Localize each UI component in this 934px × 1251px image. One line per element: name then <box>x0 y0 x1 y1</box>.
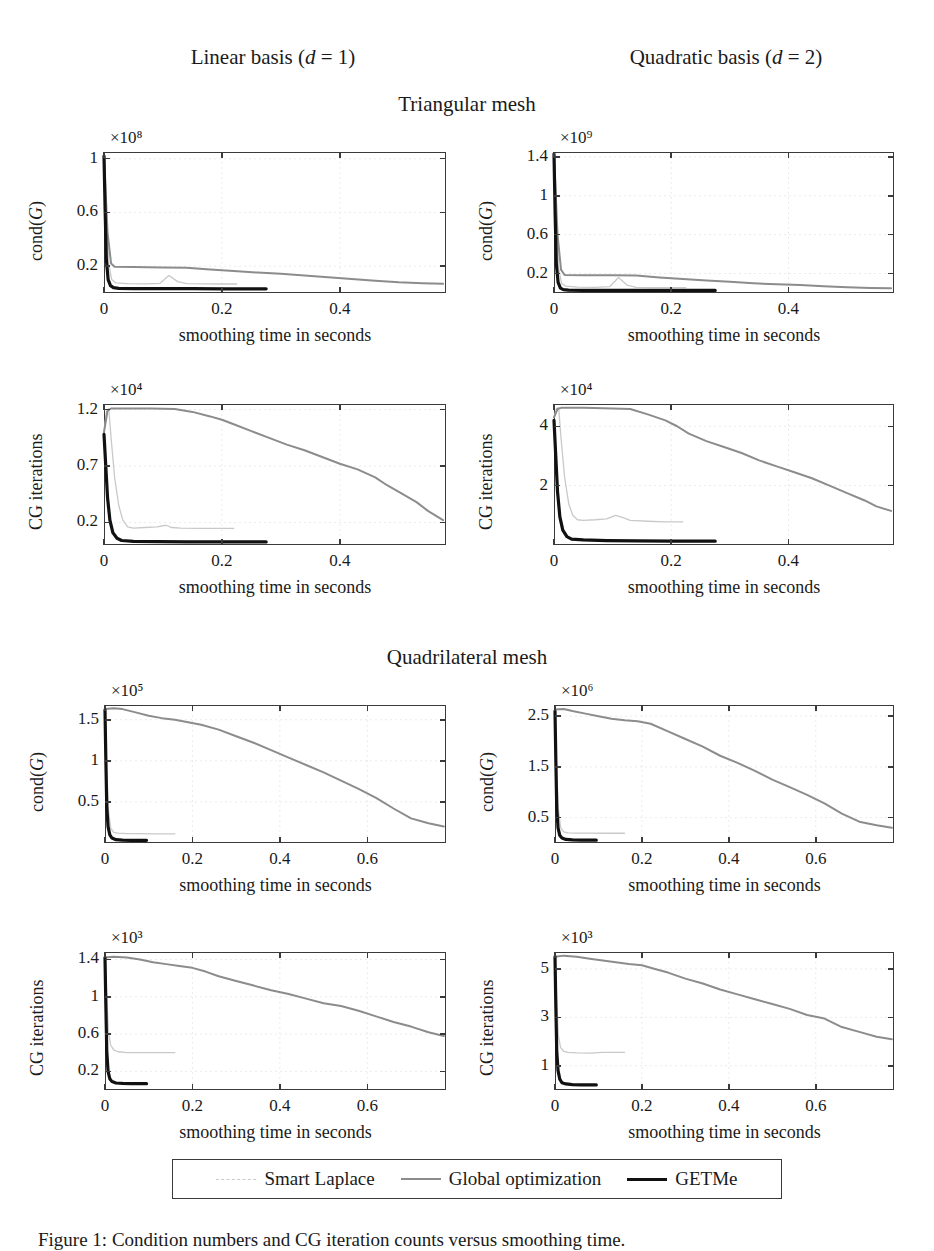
x-tick-mark <box>192 705 194 711</box>
y-tick-mark <box>555 817 561 819</box>
y-tick-label: 0.5 <box>497 807 549 827</box>
y-tick-mark <box>104 265 110 267</box>
x-tick-mark <box>367 1084 369 1090</box>
x-tick-label: 0.6 <box>337 849 397 869</box>
x-tick-mark <box>670 539 672 545</box>
y-tick-label: 1.4 <box>496 146 548 166</box>
y-tick-label: 3 <box>497 1006 549 1026</box>
y-tick-label: 0.2 <box>496 263 548 283</box>
x-tick-label: 0.4 <box>310 551 370 571</box>
series-line <box>554 408 683 522</box>
gridlines <box>554 404 894 545</box>
y-tick-mark <box>888 817 894 819</box>
x-tick-label: 0.4 <box>699 849 759 869</box>
x-tick-label: 0.4 <box>250 1096 310 1116</box>
x-tick-mark <box>641 1084 643 1090</box>
chart-canvas <box>104 152 446 293</box>
legend-item-smart-laplace: Smart Laplace <box>216 1168 400 1190</box>
legend: Smart Laplace Global optimization GETMe <box>172 1159 782 1199</box>
y-tick-mark <box>440 959 446 961</box>
y-tick-mark <box>555 1017 561 1019</box>
x-tick-label: 0.2 <box>641 299 701 319</box>
chart-canvas <box>105 952 446 1090</box>
y-axis-label: CG iterations <box>476 433 497 530</box>
x-tick-mark <box>339 152 341 158</box>
section-heading-quadrilateral: Quadrilateral mesh <box>0 645 934 670</box>
y-tick-label: 1.2 <box>46 399 98 419</box>
x-tick-mark <box>554 705 556 711</box>
series-line <box>105 708 444 826</box>
gridlines <box>554 152 894 293</box>
x-axis-label: smoothing time in seconds <box>554 577 894 598</box>
y-tick-label: 0.7 <box>46 455 98 475</box>
x-tick-mark <box>641 705 643 711</box>
x-tick-label: 0.2 <box>192 551 252 571</box>
gridlines <box>104 152 446 293</box>
x-tick-mark <box>553 152 555 158</box>
x-tick-mark <box>815 705 817 711</box>
x-tick-mark <box>788 152 790 158</box>
x-tick-mark <box>554 952 556 958</box>
y-tick-mark <box>554 426 560 428</box>
x-tick-label: 0.6 <box>786 849 846 869</box>
x-tick-mark <box>815 1084 817 1090</box>
x-tick-mark <box>553 287 555 293</box>
y-tick-mark <box>888 426 894 428</box>
panel-tri-linear-cg: ×10⁴0.20.71.200.20.4smoothing time in se… <box>104 404 446 545</box>
x-tick-mark <box>104 1084 106 1090</box>
x-tick-mark <box>641 837 643 843</box>
x-tick-mark <box>279 952 281 958</box>
y-tick-label: 0.2 <box>47 1060 99 1080</box>
x-tick-label: 0.2 <box>612 849 672 869</box>
x-tick-label: 0.2 <box>641 551 701 571</box>
x-axis-label: smoothing time in seconds <box>555 875 894 896</box>
panel-tri-quad-cg: ×10⁴2400.20.4smoothing time in secondsCG… <box>554 404 894 545</box>
series-line <box>554 420 715 541</box>
y-tick-mark <box>440 996 446 998</box>
x-tick-label: 0.2 <box>162 849 222 869</box>
x-tick-label: 0 <box>525 849 585 869</box>
x-tick-mark <box>192 837 194 843</box>
legend-item-global-optimization: Global optimization <box>401 1168 628 1190</box>
y-tick-mark <box>440 465 446 467</box>
y-axis-label: CG iterations <box>477 980 498 1077</box>
y-tick-mark <box>104 409 110 411</box>
y-tick-mark <box>555 766 561 768</box>
x-axis-label: smoothing time in seconds <box>104 577 446 598</box>
y-tick-mark <box>104 158 110 160</box>
getme-line-swatch <box>627 1178 667 1181</box>
y-tick-label: 2.5 <box>497 705 549 725</box>
chart-canvas <box>105 705 446 843</box>
y-tick-mark <box>888 1065 894 1067</box>
x-tick-label: 0.4 <box>758 299 818 319</box>
y-tick-mark <box>440 1071 446 1073</box>
x-tick-mark <box>728 837 730 843</box>
x-tick-mark <box>670 404 672 410</box>
x-tick-mark <box>339 404 341 410</box>
x-tick-label: 0.2 <box>192 299 252 319</box>
y-tick-mark <box>555 715 561 717</box>
x-tick-label: 0.4 <box>758 551 818 571</box>
y-tick-label: 0.5 <box>47 791 99 811</box>
x-tick-mark <box>554 837 556 843</box>
x-tick-mark <box>641 952 643 958</box>
x-tick-mark <box>104 705 106 711</box>
y-axis-label: cond(G) <box>27 752 48 812</box>
x-tick-mark <box>103 287 105 293</box>
x-tick-mark <box>192 1084 194 1090</box>
x-tick-mark <box>788 539 790 545</box>
x-tick-mark <box>815 837 817 843</box>
x-tick-label: 0 <box>74 299 134 319</box>
y-tick-mark <box>888 195 894 197</box>
y-axis-exponent-label: ×10⁹ <box>560 128 593 148</box>
x-tick-label: 0 <box>75 1096 135 1116</box>
y-tick-label: 0.2 <box>46 255 98 275</box>
x-tick-mark <box>553 539 555 545</box>
y-tick-mark <box>888 715 894 717</box>
y-tick-mark <box>104 465 110 467</box>
series-line <box>554 408 891 511</box>
y-tick-mark <box>555 968 561 970</box>
y-tick-mark <box>105 719 111 721</box>
x-tick-mark <box>103 152 105 158</box>
series-line <box>105 710 175 834</box>
